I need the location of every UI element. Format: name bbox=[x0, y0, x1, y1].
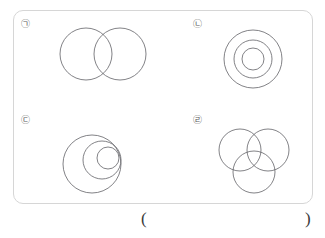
circle-c-3 bbox=[97, 147, 119, 169]
answer-open-paren: ( bbox=[141, 208, 147, 230]
circle-b-2 bbox=[234, 40, 272, 78]
answer-blank[interactable] bbox=[150, 208, 302, 230]
circle-d-1 bbox=[219, 129, 261, 171]
circle-b-3 bbox=[242, 48, 264, 70]
circle-d-3 bbox=[233, 151, 275, 193]
circle-group-a bbox=[60, 28, 146, 80]
quadrant-label-b: ㉡ bbox=[193, 20, 202, 29]
quadrant-label-c: ㉢ bbox=[21, 116, 30, 125]
figure-root: ㉠ ㉡ ㉢ ㉣ ( ) bbox=[0, 0, 325, 238]
circle-d-2 bbox=[247, 129, 289, 171]
circle-b-1 bbox=[224, 30, 282, 88]
circle-c-2 bbox=[83, 141, 121, 179]
circle-group-d bbox=[219, 129, 289, 193]
answer-close-paren: ) bbox=[305, 208, 311, 230]
quadrant-label-a: ㉠ bbox=[21, 20, 30, 29]
quadrant-label-d: ㉣ bbox=[193, 116, 202, 125]
circle-a-2 bbox=[94, 28, 146, 80]
circle-artwork bbox=[0, 0, 325, 238]
circle-group-c bbox=[63, 135, 121, 193]
answer-line: ( ) bbox=[0, 208, 325, 236]
circle-group-b bbox=[224, 30, 282, 88]
circle-a-1 bbox=[60, 28, 112, 80]
